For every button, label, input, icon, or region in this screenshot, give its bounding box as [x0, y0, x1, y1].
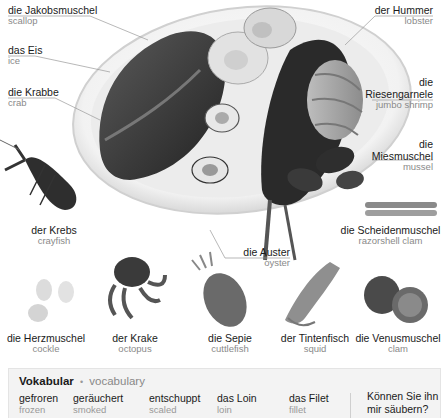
vocab-item-en: smoked — [73, 404, 123, 415]
label-ice-en: ice — [8, 56, 42, 67]
vocab-item-en: frozen — [19, 404, 58, 415]
label-lobster-en: lobster — [375, 16, 433, 27]
seafood-illustrations — [0, 0, 441, 418]
label-razorshell-en: razorshell clam — [340, 236, 441, 247]
label-squid: der Tintenfisch squid — [275, 332, 355, 355]
vocab-item: gefroren frozen — [19, 392, 58, 415]
vocab-item-de: gefroren — [19, 392, 58, 404]
label-mussel-en: mussel — [372, 162, 433, 173]
seafood-platter — [59, 0, 424, 260]
label-cuttlefish: die Sepie cuttlefish — [200, 332, 260, 355]
razorshell-illustration — [365, 202, 437, 216]
label-jumbo-shrimp-en: jumbo shrimp — [365, 100, 433, 111]
label-octopus-en: octopus — [100, 344, 170, 355]
label-clam-en: clam — [355, 344, 441, 355]
label-squid-en: squid — [275, 344, 355, 355]
vocab-item: geräuchert smoked — [73, 392, 123, 415]
label-oyster: die Auster oyster — [220, 246, 290, 269]
label-octopus: der Krake octopus — [100, 332, 170, 355]
label-lobster: der Hummer lobster — [375, 4, 433, 27]
label-clam: die Venusmuschel clam — [355, 332, 441, 355]
label-jumbo-shrimp: die Riesengarnele jumbo shrimp — [365, 76, 433, 111]
bullet-separator: • — [80, 377, 83, 387]
label-mussel: die Miesmuschel mussel — [372, 138, 433, 173]
vocabulary-divider — [350, 393, 351, 418]
label-mussel-de-1: die — [372, 138, 433, 150]
vocabulary-box: Vokabular • vocabulary gefroren frozen g… — [8, 368, 441, 418]
vocab-item-en: fillet — [289, 404, 329, 415]
vocab-item: das Loin loin — [217, 392, 257, 415]
label-crayfish: der Krebs crayfish — [14, 224, 94, 247]
label-ice: das Eis ice — [8, 44, 42, 67]
vocab-item-en: scaled — [149, 404, 200, 415]
vocab-item: entschuppt scaled — [149, 392, 200, 415]
vocabulary-title-en: vocabulary — [89, 375, 145, 387]
label-jumbo-shrimp-de-1: die — [365, 76, 433, 88]
squid-illustration — [285, 262, 340, 325]
label-scallop-en: scallop — [8, 16, 97, 27]
label-crayfish-en: crayfish — [14, 236, 94, 247]
clam-illustration — [364, 276, 428, 323]
cockle-illustration — [28, 279, 74, 322]
label-crab: die Krabbe crab — [8, 86, 59, 109]
vocab-item-de: geräuchert — [73, 392, 123, 404]
vocabulary-title: Vokabular • vocabulary — [19, 375, 145, 387]
vocab-item: das Filet fillet — [289, 392, 329, 415]
label-cockle: die Herzmuschel cockle — [6, 332, 86, 355]
label-cockle-en: cockle — [6, 344, 86, 355]
vocabulary-phrase: Können Sie ihn mir säubern? — [367, 390, 439, 416]
octopus-illustration — [110, 257, 165, 318]
label-cuttlefish-en: cuttlefish — [200, 344, 260, 355]
vocab-item-de: das Filet — [289, 392, 329, 404]
crayfish-illustration — [0, 140, 76, 210]
label-scallop: die Jakobsmuschel scallop — [8, 4, 97, 27]
label-oyster-en: oyster — [220, 258, 290, 269]
vocabulary-title-de: Vokabular — [19, 375, 74, 387]
label-razorshell: die Scheidenmuschel razorshell clam — [340, 224, 441, 247]
vocab-item-de: das Loin — [217, 392, 257, 404]
vocab-item-en: loin — [217, 404, 257, 415]
vocab-item-de: entschuppt — [149, 392, 200, 404]
label-crab-en: crab — [8, 98, 59, 109]
